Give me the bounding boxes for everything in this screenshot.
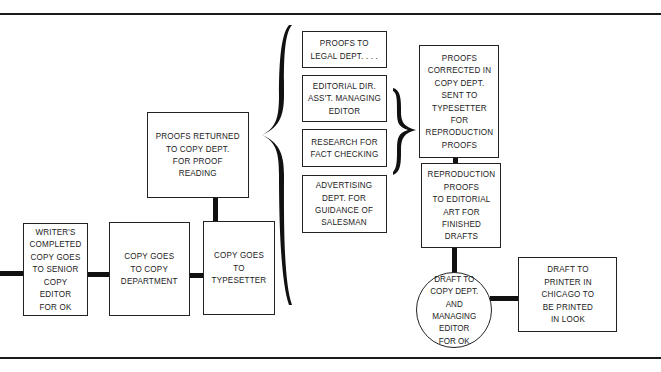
node-research: RESEARCH FOR FACT CHECKING: [302, 129, 387, 167]
node-legal-label: PROOFS TO LEGAL DEPT. . . .: [311, 37, 378, 62]
node-editorial: EDITORIAL DIR. ASS'T. MANAGING EDITOR: [302, 75, 387, 122]
node-typesetter-label: COPY GOES TO TYPESETTER: [208, 249, 270, 286]
node-proofs-corrected-label: PROOFS CORRECTED IN COPY DEPT. SENT TO T…: [425, 52, 493, 151]
node-copy-dept-label: COPY GOES TO COPY DEPARTMENT: [121, 250, 178, 287]
node-proofs-returned: PROOFS RETURNED TO COPY DEPT. FOR PROOF …: [147, 112, 249, 198]
node-typesetter: COPY GOES TO TYPESETTER: [203, 221, 275, 315]
node-advertising: ADVERTISING DEPT. FOR GUIDANCE OF SALESM…: [302, 175, 387, 233]
node-reproduction: REPRODUCTION PROOFS TO EDITORIAL ART FOR…: [421, 163, 501, 248]
small-brace: [393, 88, 416, 175]
node-printer-label: DRAFT TO PRINTER IN CHICAGO TO BE PRINTE…: [541, 263, 594, 325]
node-reproduction-label: REPRODUCTION PROOFS TO EDITORIAL ART FOR…: [427, 168, 495, 242]
node-copy-dept: COPY GOES TO COPY DEPARTMENT: [109, 222, 190, 316]
node-editorial-label: EDITORIAL DIR. ASS'T. MANAGING EDITOR: [308, 80, 381, 117]
node-writer-label: WRITER'S COMPLETED COPY GOES TO SENIOR C…: [28, 226, 83, 313]
node-proofs-corrected: PROOFS CORRECTED IN COPY DEPT. SENT TO T…: [419, 45, 499, 158]
node-draft-copy-label: DRAFT TO COPY DEPT. AND MANAGING EDITOR …: [430, 273, 478, 347]
node-legal: PROOFS TO LEGAL DEPT. . . .: [302, 31, 387, 68]
node-writer: WRITER'S COMPLETED COPY GOES TO SENIOR C…: [23, 223, 88, 316]
node-advertising-label: ADVERTISING DEPT. FOR GUIDANCE OF SALESM…: [315, 179, 373, 229]
node-printer: DRAFT TO PRINTER IN CHICAGO TO BE PRINTE…: [518, 257, 617, 332]
node-research-label: RESEARCH FOR FACT CHECKING: [311, 136, 379, 161]
node-draft-copy: DRAFT TO COPY DEPT. AND MANAGING EDITOR …: [416, 272, 492, 348]
node-proofs-returned-label: PROOFS RETURNED TO COPY DEPT. FOR PROOF …: [156, 130, 240, 180]
